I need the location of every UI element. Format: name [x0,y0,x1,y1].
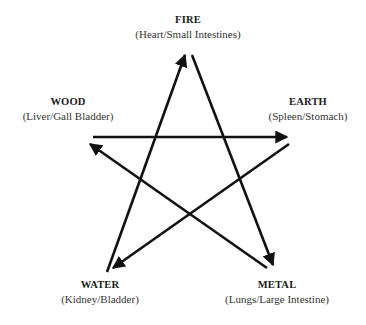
element-organs-wood: (Liver/Gall Bladder) [23,110,114,122]
element-organs-fire: (Heart/Small Intestines) [135,28,240,40]
element-name-metal: METAL [225,279,329,290]
node-fire: FIRE (Heart/Small Intestines) [135,14,240,40]
five-elements-diagram: FIRE (Heart/Small Intestines) WOOD (Live… [0,0,366,325]
node-metal: METAL (Lungs/Large Intestine) [225,279,329,305]
element-organs-metal: (Lungs/Large Intestine) [225,293,329,305]
element-name-water: WATER [61,279,139,290]
node-wood: WOOD (Liver/Gall Bladder) [23,96,114,122]
element-name-earth: EARTH [269,96,348,107]
element-name-wood: WOOD [23,96,114,107]
node-water: WATER (Kidney/Bladder) [61,279,139,305]
arrow-fire-to-metal [192,55,273,265]
arrows-layer [0,0,366,325]
element-organs-earth: (Spleen/Stomach) [269,110,348,122]
arrow-metal-to-wood [90,144,267,268]
node-earth: EARTH (Spleen/Stomach) [269,96,348,122]
element-organs-water: (Kidney/Bladder) [61,293,139,305]
element-name-fire: FIRE [135,14,240,25]
arrow-earth-to-water [113,144,289,268]
